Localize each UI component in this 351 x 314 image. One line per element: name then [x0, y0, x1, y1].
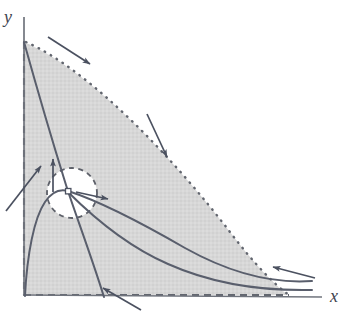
phase-plane-diagram: y x [0, 0, 351, 314]
x-axis-label: x [329, 286, 338, 306]
figure-container: y x [0, 0, 351, 314]
y-axis-label: y [2, 7, 12, 27]
arrow-right-outflow [273, 267, 315, 278]
saddle-point [66, 189, 71, 194]
